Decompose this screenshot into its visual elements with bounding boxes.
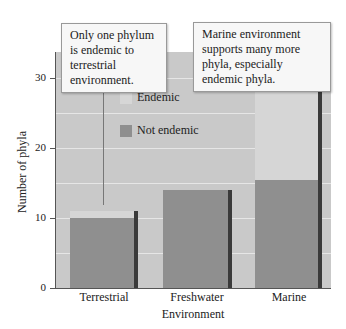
x-axis-line bbox=[55, 288, 331, 289]
y-tick-20 bbox=[50, 148, 55, 149]
y-axis-line bbox=[55, 52, 56, 289]
y-tick-0 bbox=[50, 288, 55, 289]
bar-segment-endemic bbox=[70, 211, 134, 218]
bar-segment-endemic bbox=[255, 89, 318, 180]
bar-segment-not-endemic bbox=[163, 190, 228, 288]
bar-marine bbox=[255, 89, 322, 288]
x-category-terrestrial: Terrestrial bbox=[59, 290, 149, 305]
x-axis-label: Environment bbox=[0, 307, 346, 322]
callout-marine: Marine environment supports many more ph… bbox=[193, 22, 331, 92]
x-category-marine: Marine bbox=[244, 290, 334, 305]
bar-terrestrial bbox=[70, 211, 138, 288]
y-tick-label: 30 bbox=[16, 71, 46, 83]
callout-terrestrial: Only one phylum is endemic to terrestria… bbox=[61, 23, 167, 93]
legend-swatch-endemic bbox=[120, 92, 132, 104]
bar-freshwater bbox=[163, 190, 232, 288]
y-tick-30 bbox=[50, 78, 55, 79]
legend-label: Not endemic bbox=[137, 123, 199, 138]
y-tick-label: 0 bbox=[16, 281, 46, 293]
x-category-freshwater: Freshwater bbox=[152, 290, 242, 305]
y-tick-10 bbox=[50, 218, 55, 219]
bar-segment-not-endemic bbox=[70, 218, 134, 288]
bar-shadow bbox=[134, 211, 138, 288]
legend-item-not-endemic: Not endemic bbox=[120, 123, 199, 138]
bar-shadow bbox=[318, 89, 322, 288]
y-axis-label: Number of phyla bbox=[15, 131, 30, 213]
bar-segment-not-endemic bbox=[255, 180, 318, 288]
legend-swatch-not-endemic bbox=[120, 125, 132, 137]
bar-shadow bbox=[228, 190, 232, 288]
